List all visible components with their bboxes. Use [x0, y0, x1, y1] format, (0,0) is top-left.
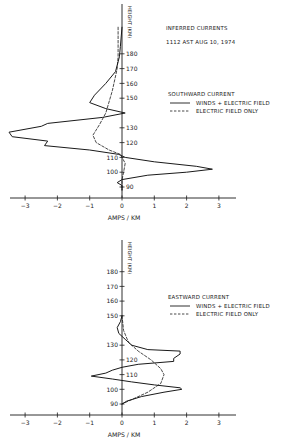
x-tick-label: 1	[152, 202, 156, 209]
figure: INFERRED CURRENTS 1112 AST AUG 10, 1974 …	[0, 0, 294, 448]
x-tick-label: 3	[217, 419, 221, 426]
x-tick-label: −2	[53, 419, 62, 426]
x-tick-label: 2	[185, 202, 189, 209]
y-tick-label: 130	[126, 124, 138, 131]
y-axis-title: HEIGHT (KM)	[127, 242, 133, 274]
inferred-currents-chart: INFERRED CURRENTS 1112 AST AUG 10, 1974 …	[0, 0, 294, 448]
y-tick-label: 120	[126, 356, 138, 363]
y-tick-label: 100	[107, 386, 119, 393]
y-tick-label: 180	[107, 268, 119, 275]
y-tick-label: 150	[126, 94, 138, 101]
x-tick-label: 0	[120, 202, 124, 209]
x-tick-label: 2	[185, 419, 189, 426]
y-tick-label: 110	[126, 371, 138, 378]
x-tick-label: −3	[21, 202, 30, 209]
background	[0, 0, 294, 448]
y-tick-label: 180	[126, 50, 138, 57]
x-axis-title: AMPS / KM	[108, 214, 141, 221]
x-tick-label: 0	[120, 419, 124, 426]
legend-solid-label: WINDS + ELECTRIC FIELD	[196, 100, 270, 106]
y-tick-label: 170	[126, 65, 138, 72]
y-axis-title: HEIGHT (KM)	[127, 6, 133, 38]
legend-dashed-label: ELECTRIC FIELD ONLY	[196, 311, 259, 317]
x-tick-label: −3	[21, 419, 30, 426]
x-tick-label: 1	[152, 419, 156, 426]
chart-title: INFERRED CURRENTS	[166, 25, 228, 31]
legend-title: SOUTHWARD CURRENT	[168, 91, 235, 97]
legend-title: EASTWARD CURRENT	[168, 294, 230, 300]
legend-solid-label: WINDS + ELECTRIC FIELD	[196, 303, 270, 309]
y-tick-label: 150	[107, 312, 119, 319]
x-tick-label: −1	[85, 202, 94, 209]
x-tick-label: −2	[53, 202, 62, 209]
chart-subtitle: 1112 AST AUG 10, 1974	[166, 39, 236, 45]
x-axis-title: AMPS / KM	[108, 431, 141, 438]
y-tick-label: 90	[110, 400, 118, 407]
y-tick-label: 160	[107, 297, 119, 304]
x-tick-label: −1	[85, 419, 94, 426]
y-tick-label: 130	[107, 341, 119, 348]
y-tick-label: 100	[107, 168, 119, 175]
x-tick-label: 3	[217, 202, 221, 209]
y-tick-label: 170	[107, 283, 119, 290]
y-tick-label: 110	[107, 154, 119, 161]
y-tick-label: 160	[126, 80, 138, 87]
legend-dashed-label: ELECTRIC FIELD ONLY	[196, 108, 259, 114]
y-tick-label: 120	[126, 139, 138, 146]
y-tick-label: 90	[126, 183, 134, 190]
